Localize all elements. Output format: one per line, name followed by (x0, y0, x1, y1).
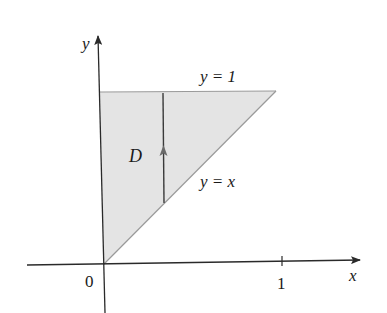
curve-label-y-equals-1: y = 1 (198, 67, 236, 86)
x-axis-label: x (348, 266, 357, 285)
double-integral-region-diagram: y x 0 1 D y = 1 y = x (0, 0, 387, 313)
region-label-d: D (128, 146, 142, 166)
x-tick-label-1: 1 (277, 274, 286, 293)
x-axis (27, 260, 360, 265)
curve-label-y-equals-x: y = x (198, 172, 236, 191)
y-axis-label: y (80, 34, 90, 53)
origin-label: 0 (85, 272, 94, 291)
